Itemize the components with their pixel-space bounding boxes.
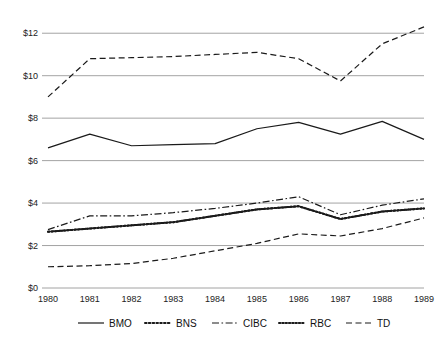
x-tick-label: 1986 [289,294,309,304]
y-tick-label: $6 [28,156,38,166]
axis-gridlines [42,33,424,288]
y-tick-label: $4 [28,198,38,208]
legend-label-bns: BNS [176,318,197,329]
legend-label-rbc: RBC [310,318,331,329]
x-tick-label: 1988 [372,294,392,304]
x-tick-label: 1984 [205,294,225,304]
series-line-bmo [48,121,424,148]
x-tick-label: 1981 [80,294,100,304]
line-chart-svg: $0$2$4$6$8$10$12 19801981198219831984198… [0,0,438,349]
x-tick-label: 1982 [122,294,142,304]
y-tick-label: $8 [28,113,38,123]
y-tick-label: $2 [28,241,38,251]
series-line-td [48,218,424,267]
x-tick-label: 1980 [38,294,58,304]
series-line-top [48,27,424,97]
series-line-rbc [48,206,424,231]
chart-container: $0$2$4$6$8$10$12 19801981198219831984198… [0,0,438,349]
legend-label-cibc: CIBC [243,318,267,329]
legend-label-bmo: BMO [109,318,132,329]
x-tick-label: 1987 [330,294,350,304]
y-tick-label: $12 [23,28,38,38]
x-tick-label: 1983 [163,294,183,304]
y-axis-tick-labels: $0$2$4$6$8$10$12 [23,28,38,293]
y-tick-label: $10 [23,71,38,81]
data-series-group [48,27,424,267]
y-tick-label: $0 [28,283,38,293]
x-tick-label: 1985 [247,294,267,304]
x-axis-tick-labels: 1980198119821983198419851986198719881989 [38,294,434,304]
x-tick-label: 1989 [414,294,434,304]
chart-legend: BMOBNSCIBCRBCTD [78,318,390,329]
legend-label-td: TD [377,318,390,329]
